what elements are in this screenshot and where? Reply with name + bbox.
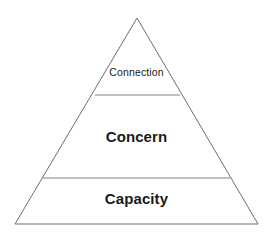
- tier-label-capacity: Capacity: [0, 191, 273, 206]
- tier-label-concern-text: Concern: [106, 129, 168, 144]
- tier-label-concern: Concern: [0, 129, 273, 144]
- tier-label-connection: Connection: [0, 67, 273, 78]
- tier-label-capacity-text: Capacity: [105, 191, 168, 206]
- pyramid-diagram: Connection Concern Capacity: [0, 0, 273, 236]
- tier-label-connection-text: Connection: [109, 67, 164, 78]
